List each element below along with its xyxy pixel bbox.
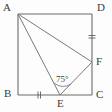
vertex-label-C: C xyxy=(96,89,103,100)
vertex-label-E: E xyxy=(57,98,64,109)
vertex-label-D: D xyxy=(97,2,105,13)
geometry-figure: A D B C E F 75° xyxy=(0,0,112,112)
vertex-label-A: A xyxy=(3,2,11,13)
segment-AE xyxy=(18,14,60,95)
angle-label-75-degrees: 75° xyxy=(56,75,69,84)
segment-AF xyxy=(18,14,92,62)
vertex-label-B: B xyxy=(4,88,11,99)
vertex-label-F: F xyxy=(96,56,102,67)
interior-segments xyxy=(18,14,92,95)
